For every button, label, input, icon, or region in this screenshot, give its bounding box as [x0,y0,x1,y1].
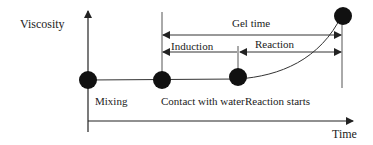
viscosity-time-diagram: Viscosity Time Gel time Induction Reacti… [0,0,373,145]
contact-dot [153,71,171,89]
induction-label: Induction [171,40,214,52]
reaction-start-dot [229,68,247,86]
y-axis-label: Viscosity [20,17,65,31]
diagram-canvas: Viscosity Time Gel time Induction Reacti… [0,0,373,145]
mixing-dot [79,71,97,89]
contact-label: Contact with water [161,95,245,107]
x-axis-label: Time [332,127,357,141]
reaction-label: Reaction [255,38,295,50]
reaction-starts-label: Reaction starts [245,95,310,107]
viscosity-curve [88,15,342,80]
gel-time-label: Gel time [232,17,270,29]
mixing-label: Mixing [95,95,128,107]
gel-dot [334,7,352,25]
